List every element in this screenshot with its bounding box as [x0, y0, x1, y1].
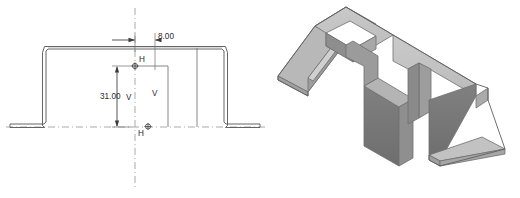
main-top-face-right	[393, 35, 476, 96]
profile-outline	[10, 47, 260, 128]
model-svg	[268, 0, 520, 198]
right-inner-leg-front	[408, 63, 419, 124]
model-pane	[268, 0, 520, 198]
constraint-v-right: V	[152, 89, 158, 98]
arrowhead-down	[115, 121, 119, 128]
arrowhead-up	[115, 66, 119, 73]
constraint-v-left: V	[126, 93, 132, 102]
dimension-8-text: 8.00	[158, 32, 174, 41]
constraint-h-upper: H	[139, 55, 145, 64]
constraint-h-lower: H	[138, 129, 144, 138]
dimension-31-text: 31.00	[100, 92, 121, 101]
sketch-point-lower	[144, 123, 151, 130]
right-outer-wall-side	[476, 88, 488, 108]
sketch-pane: 8.00 31.00 H	[0, 0, 270, 198]
dimension-8: 8.00	[112, 32, 174, 71]
sketch-point-upper	[131, 62, 138, 69]
figure-root: 8.00 31.00 H	[0, 0, 520, 198]
arrowhead-right	[129, 38, 136, 42]
sketch-svg: 8.00 31.00 H	[0, 0, 270, 198]
